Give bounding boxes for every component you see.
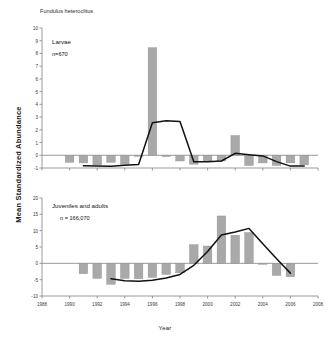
svg-text:1992: 1992 xyxy=(92,302,103,307)
larvae-annotation: Larvae xyxy=(52,38,71,45)
svg-text:1988: 1988 xyxy=(37,302,48,307)
figure-container: Fundulus heteroclitus Mean Standardized … xyxy=(0,0,330,340)
svg-text:1990: 1990 xyxy=(64,302,75,307)
svg-text:6: 6 xyxy=(35,77,38,82)
svg-text:5: 5 xyxy=(35,90,38,95)
svg-text:10: 10 xyxy=(33,26,39,31)
svg-text:2002: 2002 xyxy=(230,302,241,307)
svg-text:2004: 2004 xyxy=(258,302,269,307)
svg-text:3: 3 xyxy=(35,115,38,120)
svg-text:1998: 1998 xyxy=(175,302,186,307)
species-title: Fundulus heteroclitus xyxy=(40,8,93,14)
svg-text:1996: 1996 xyxy=(147,302,158,307)
svg-text:1: 1 xyxy=(35,141,38,146)
panel-larvae: Larvae n=670 -1012345678910 xyxy=(0,18,330,180)
svg-text:4: 4 xyxy=(35,102,38,107)
svg-text:1994: 1994 xyxy=(120,302,131,307)
svg-text:2000: 2000 xyxy=(202,302,213,307)
svg-text:0: 0 xyxy=(35,261,38,266)
svg-text:-1: -1 xyxy=(34,166,39,171)
svg-text:2006: 2006 xyxy=(285,302,296,307)
svg-text:15: 15 xyxy=(33,212,39,217)
svg-text:8: 8 xyxy=(35,51,38,56)
juveniles-adults-plot: -10-505101520198819901992199419961998200… xyxy=(0,188,330,323)
svg-text:10: 10 xyxy=(33,229,39,234)
svg-text:-10: -10 xyxy=(31,294,38,299)
svg-text:0: 0 xyxy=(35,153,38,158)
svg-text:20: 20 xyxy=(33,196,39,201)
svg-text:2: 2 xyxy=(35,128,38,133)
panel-juveniles-adults: Juveniles and adults n = 166,070 -10-505… xyxy=(0,188,330,323)
larvae-plot: -1012345678910 xyxy=(0,18,330,180)
svg-text:7: 7 xyxy=(35,64,38,69)
x-axis-title: Year xyxy=(0,325,330,331)
svg-text:5: 5 xyxy=(35,245,38,250)
svg-text:-5: -5 xyxy=(34,278,39,283)
svg-text:2008: 2008 xyxy=(313,302,324,307)
larvae-sample-size: n=670 xyxy=(52,51,68,57)
juveniles-sample-size: n = 166,070 xyxy=(60,215,90,221)
svg-text:9: 9 xyxy=(35,39,38,44)
juveniles-annotation: Juveniles and adults xyxy=(52,202,108,209)
